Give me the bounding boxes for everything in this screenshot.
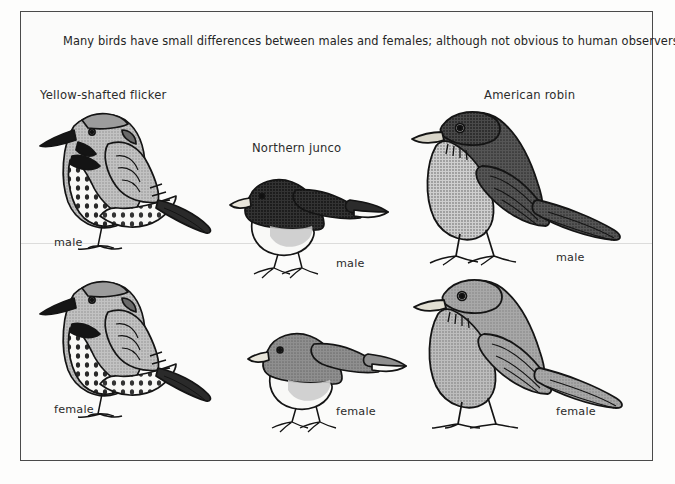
bird-illustration-robin-female [400,268,640,428]
bird-illustration-flicker-female [30,272,230,422]
bird-illustration-junco-male [222,168,397,278]
bird-illustration-junco-female [240,322,415,432]
bird-illustration-flicker-male [30,104,230,254]
species-label-northern-junco: Northern junco [252,141,341,155]
bird-illustration-robin-male [398,100,638,265]
figure-caption: Many birds have small differences betwee… [63,32,623,51]
species-label-yellow-shafted-flicker: Yellow-shafted flicker [40,88,166,102]
figure-page: Many birds have small differences betwee… [0,0,675,484]
